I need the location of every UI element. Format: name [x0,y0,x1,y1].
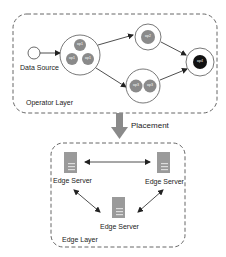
data-source-label: Data Source [20,64,59,71]
operator-layer-label: Operator Layer [26,99,73,106]
edge-op3-op4 [160,69,187,80]
placement-arrow [111,113,128,139]
data-source-node [28,47,40,59]
server-label: Edge Server [145,178,184,185]
op2-label: op2 [144,35,152,39]
server-icon [112,197,125,218]
op3-label: op3 [132,84,140,88]
edge-op1-op3 [96,68,126,87]
edge-layer-label: Edge Layer [62,236,98,243]
op4-label: op4 [196,60,204,64]
link-server1-server3 [74,190,100,212]
server-icon [157,152,170,173]
server-label: Edge Server [100,223,139,230]
op1-label: op1 [76,43,84,47]
server-label: Edge Server [53,177,92,184]
link-server2-server3 [138,190,163,212]
placement-label: Placement [131,122,169,130]
op3-label: op3 [146,84,154,88]
server-icon [64,152,77,173]
edge-op1-op2 [98,35,133,45]
op1-label: op1 [84,57,92,61]
diagram-canvas [0,0,226,257]
op1-label: op1 [68,57,76,61]
edge-op2-op4 [161,42,186,55]
